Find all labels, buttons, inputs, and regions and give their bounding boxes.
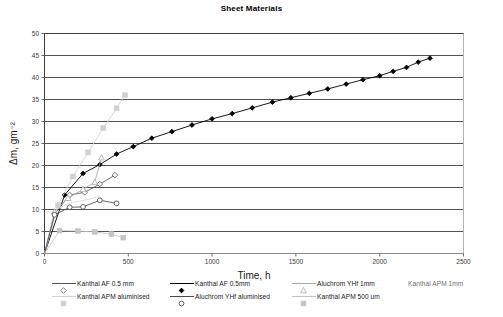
legend-item-label: Kanthal AF 0.5 mm bbox=[76, 280, 134, 287]
svg-text:35: 35 bbox=[32, 96, 40, 103]
series-aluchrom-yhf-1mm bbox=[45, 155, 105, 254]
legend-key-open-circle-icon bbox=[170, 291, 194, 302]
legend-item[interactable]: Aluchrom YHf 1mm bbox=[292, 277, 375, 290]
svg-text:0: 0 bbox=[43, 258, 47, 265]
chart-container: Sheet Materials 05101520253035404550 050… bbox=[0, 0, 503, 317]
chart-plot-area: 05101520253035404550 0500100015002000250… bbox=[0, 0, 503, 317]
y-axis-title: Δm, gm⁻² bbox=[8, 121, 19, 164]
x-axis-tick-labels: 05001000150020002500 bbox=[43, 254, 471, 266]
legend-item-label: Aluchrom YHf 1mm bbox=[316, 280, 375, 287]
series-kanthal-apm-500-um bbox=[45, 228, 126, 253]
legend-item-label: Kanthal APM 1mm bbox=[407, 280, 463, 287]
svg-text:45: 45 bbox=[32, 52, 40, 59]
legend-item[interactable]: Kanthal APM aluminised bbox=[52, 290, 150, 303]
legend-key-open-triangle-icon bbox=[292, 278, 316, 289]
svg-text:15: 15 bbox=[32, 184, 40, 191]
svg-text:1500: 1500 bbox=[289, 258, 304, 265]
legend-item[interactable]: Kanthal APM 500 um bbox=[292, 290, 380, 303]
svg-text:50: 50 bbox=[32, 30, 40, 37]
legend-item[interactable]: Aluchrom YHf aluminised bbox=[170, 290, 270, 303]
svg-text:30: 30 bbox=[32, 118, 40, 125]
legend-item-label: Kanthal APM aluminised bbox=[76, 293, 150, 300]
svg-text:0: 0 bbox=[35, 250, 39, 257]
legend-item-label: Kanthal APM 500 um bbox=[316, 293, 380, 300]
data-series-layer bbox=[45, 56, 433, 254]
legend-key-open-diamond-icon bbox=[52, 278, 76, 289]
svg-text:2000: 2000 bbox=[372, 258, 387, 265]
svg-text:1000: 1000 bbox=[205, 258, 220, 265]
legend-row: Kanthal APM aluminisedAluchrom YHf alumi… bbox=[52, 290, 492, 303]
svg-text:500: 500 bbox=[123, 258, 134, 265]
legend-key-filled-square-icon bbox=[52, 291, 76, 302]
legend-row: Kanthal AF 0.5 mmKanthal AF 0.5mmAluchro… bbox=[52, 277, 492, 290]
svg-text:2500: 2500 bbox=[456, 258, 471, 265]
legend-item-label: Aluchrom YHf aluminised bbox=[194, 293, 270, 300]
legend-item-label: Kanthal AF 0.5mm bbox=[194, 280, 250, 287]
svg-text:20: 20 bbox=[32, 162, 40, 169]
svg-text:10: 10 bbox=[32, 206, 40, 213]
svg-text:5: 5 bbox=[35, 228, 39, 235]
chart-legend: Kanthal AF 0.5 mmKanthal AF 0.5mmAluchro… bbox=[52, 277, 492, 311]
legend-key-filled-square-icon bbox=[292, 291, 316, 302]
svg-text:25: 25 bbox=[32, 140, 40, 147]
legend-item[interactable]: Kanthal AF 0.5mm bbox=[170, 277, 250, 290]
legend-item[interactable]: Kanthal APM 1mm bbox=[407, 277, 463, 290]
y-axis-tick-labels: 05101520253035404550 bbox=[32, 30, 45, 257]
svg-text:40: 40 bbox=[32, 74, 40, 81]
series-kanthal-af-0-5mm bbox=[45, 56, 433, 254]
legend-item[interactable]: Kanthal AF 0.5 mm bbox=[52, 277, 134, 290]
legend-key-filled-diamond-icon bbox=[170, 278, 194, 289]
